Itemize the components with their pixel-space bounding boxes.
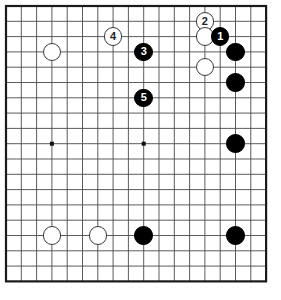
white-stone-bottom-a[interactable] [43,226,62,245]
move-number-label: 3 [141,46,147,57]
black-stone-right-b[interactable] [226,73,245,92]
move-number-label: 4 [110,31,116,42]
star-point-center-icon [142,142,146,146]
go-diagram-root: 43521 [0,0,281,300]
move-number-label: 2 [202,16,208,27]
black-move-3[interactable]: 3 [134,43,153,62]
black-stone-right-c[interactable] [226,134,245,153]
black-move-5[interactable]: 5 [134,89,153,108]
black-stone-bottom-a[interactable] [134,226,153,245]
star-point-left-icon [50,142,54,146]
go-board[interactable]: 43521 [0,0,281,300]
white-move-4[interactable]: 4 [104,27,123,46]
move-number-label: 5 [141,92,147,103]
white-stone-upper-left[interactable] [43,43,62,62]
black-stone-bottom-b[interactable] [226,226,245,245]
black-stone-right-a[interactable] [226,43,245,62]
move-number-label: 1 [217,31,223,42]
white-stone-bottom-b[interactable] [89,226,108,245]
